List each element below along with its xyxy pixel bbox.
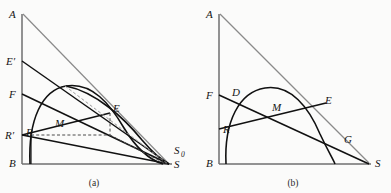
label-b-s: S — [375, 157, 381, 169]
label-a-eprime: E′ — [5, 55, 16, 67]
caption-panel-a: (a) — [89, 178, 100, 189]
label-a-b: B — [9, 157, 16, 169]
chord-rprime-s-a — [22, 135, 169, 164]
label-b-f: F — [205, 89, 213, 101]
chord-eprime-s-a — [22, 61, 169, 164]
label-a-r: R — [25, 126, 33, 138]
label-b-apex: A — [205, 8, 213, 20]
label-a-m: M — [54, 117, 65, 129]
label-a-e: E — [112, 102, 120, 114]
label-b-g: G — [344, 133, 352, 145]
hypotenuse-a-s-a — [23, 14, 168, 163]
dashed-crest-to-s-a — [65, 86, 168, 164]
label-b-e: E — [324, 94, 332, 106]
label-b-m: M — [271, 101, 282, 113]
label-a-szero: S — [174, 144, 180, 156]
caption-panel-b: (b) — [287, 178, 298, 189]
label-b-d: D — [231, 86, 240, 98]
diagram-panel-a: A E′ F R R′ B M E S 0 S (a) — [0, 0, 196, 193]
curve-parabola-b — [226, 88, 335, 164]
figure-container: A E′ F R R′ B M E S 0 S (a) A F D R B M … — [0, 0, 391, 193]
label-a-s: S — [174, 158, 180, 170]
diagram-panel-b: A F D R B M E G S (b) — [195, 0, 391, 193]
label-b-b: B — [206, 157, 213, 169]
label-a-f: F — [8, 88, 16, 100]
curve-arc-secondary-a — [66, 86, 169, 164]
label-a-apex: A — [8, 8, 16, 20]
label-a-szero-subscript: 0 — [181, 150, 185, 159]
label-a-rprime: R′ — [4, 129, 15, 141]
label-b-r: R — [222, 123, 230, 135]
chord-f-s-b — [219, 95, 369, 164]
